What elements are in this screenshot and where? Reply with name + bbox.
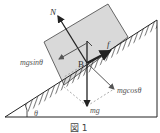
label-normal: N [49, 7, 57, 17]
label-parallel: mgsinθ [20, 58, 43, 67]
label-angle: θ [34, 109, 38, 118]
label-point: B [78, 59, 84, 69]
incline-diagram: N f B mgsinθ mgcosθ mg θ 図 1 [0, 0, 160, 133]
perpendicular-component-arrow [87, 63, 114, 89]
label-perpendicular: mgcosθ [117, 86, 141, 95]
figure-caption: 図 1 [70, 123, 88, 133]
label-weight: mg [90, 106, 100, 115]
